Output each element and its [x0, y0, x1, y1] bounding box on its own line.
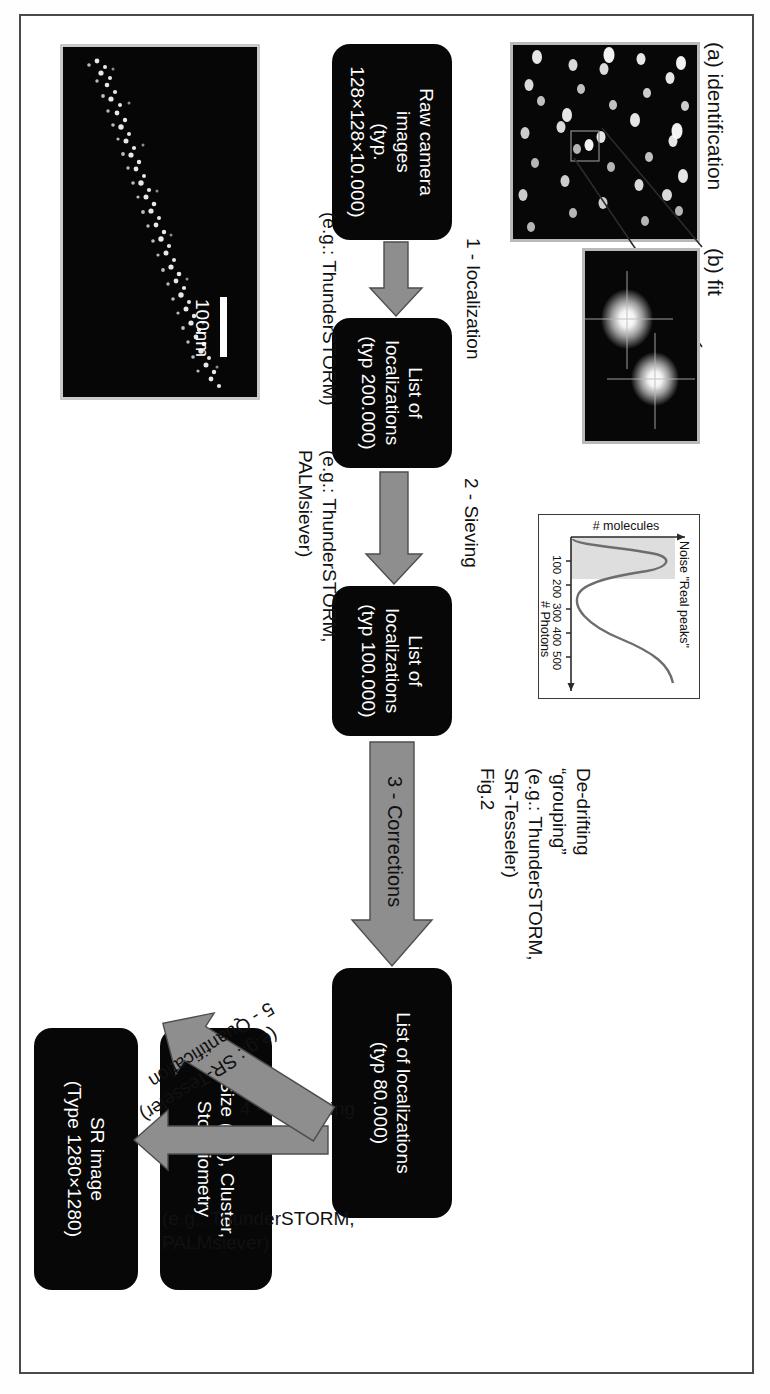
- node-line-2: localizations: [380, 330, 403, 455]
- fit-image: [582, 248, 700, 444]
- node-line-2: (Type 1280×1280): [63, 1075, 86, 1243]
- node-sr-image: SR image (Type 1280×1280): [34, 1028, 138, 1290]
- scale-bar: [220, 297, 227, 357]
- node-line-1: List of localizations: [392, 1006, 415, 1180]
- arrow-step2-note2: PALMsiever): [294, 450, 316, 557]
- arrow-step2-sieving: [354, 472, 430, 588]
- node-line-3: (typ. 128×128×10.000): [346, 50, 392, 234]
- rotated-figure-canvas: (a) identification: [0, 0, 770, 1394]
- scale-bar-label: 100nm: [191, 299, 213, 357]
- node-list-200k: List of localizations (typ 200.000): [332, 318, 452, 468]
- hist-xtick-400: 400: [551, 627, 563, 646]
- hist-noise-annotation: Noise "Real peaks": [677, 541, 691, 648]
- panel-label-fit: (b) fit: [703, 248, 728, 296]
- node-line-3: (typ 200.000): [357, 330, 380, 455]
- hist-xtick-100: 100: [551, 555, 563, 574]
- hist-xtick-300: 300: [551, 603, 563, 622]
- node-line-1: SR image: [86, 1075, 109, 1243]
- arrow-step1-label: 1 - localization: [462, 238, 484, 359]
- node-line-1: Raw camera: [415, 50, 438, 234]
- arrow-step4-note1: (e.g.: ThunderSTORM,: [162, 1208, 355, 1230]
- arrow-step3-label: 3 - Corrections: [383, 776, 406, 907]
- figure-frame: (a) identification: [19, 14, 754, 1374]
- node-line-1: List of: [404, 330, 427, 455]
- panel-label-identification: (a) identification: [703, 42, 728, 190]
- arrow-step3-note4: SR-Tesseler): [500, 768, 522, 878]
- arrow-step3-note2: “grouping”: [548, 768, 570, 855]
- arrow-step2-note1: (e.g.: ThunderSTORM,: [318, 450, 340, 643]
- arrow-step3-note3: (e.g.: ThunderSTORM,: [524, 768, 546, 961]
- node-line-1: List of: [404, 598, 427, 723]
- arrow-step2-label: 2 - Sieving: [460, 478, 482, 568]
- node-line-3: (typ 100.000): [357, 598, 380, 723]
- node-list-80k: List of localizations (typ 80.000): [332, 968, 452, 1218]
- arrow-step1-localization: [352, 242, 432, 322]
- hist-xtick-200: 200: [551, 579, 563, 598]
- hist-yaxis-label: # molecules: [593, 519, 660, 533]
- hist-xaxis-label: # Photons: [538, 601, 552, 657]
- node-raw-camera-images: Raw camera images (typ. 128×128×10.000): [332, 44, 452, 240]
- arrow-step3-note1: De-drifting: [572, 768, 594, 856]
- arrow-step3-note5: Fig.2: [476, 768, 498, 810]
- arrow-step4-note2: PALMsiever): [162, 1232, 269, 1254]
- arrow-step1-note1: (e.g.: ThunderSTORM): [318, 212, 340, 406]
- hist-xtick-500: 500: [551, 651, 563, 670]
- node-line-2: localizations: [380, 598, 403, 723]
- photon-histogram-inset: 100 200 300 400 500 # Photons # molecule…: [538, 514, 700, 699]
- sr-result-image: 100nm: [60, 44, 260, 400]
- node-line-2: images: [392, 50, 415, 234]
- node-line-2: (typ 80.000): [369, 1006, 392, 1180]
- node-list-100k: List of localizations (typ 100.000): [332, 586, 452, 736]
